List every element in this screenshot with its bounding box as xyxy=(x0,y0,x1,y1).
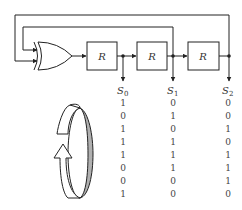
output-label-s2: S 2 xyxy=(222,85,233,98)
svg-text:1: 1 xyxy=(170,150,176,160)
svg-text:0: 0 xyxy=(120,163,126,173)
svg-text:1: 1 xyxy=(225,124,231,134)
sequence-row: 0 0 1 xyxy=(120,176,231,186)
svg-text:0: 0 xyxy=(170,98,176,108)
svg-text:0: 0 xyxy=(225,189,231,199)
svg-text:R: R xyxy=(147,51,156,62)
circular-arrow-icon xyxy=(54,104,93,198)
svg-text:S: S xyxy=(167,85,174,96)
sequence-row: 1 1 1 xyxy=(120,150,231,160)
svg-text:1: 1 xyxy=(170,111,176,121)
svg-text:S: S xyxy=(117,85,124,96)
svg-text:R: R xyxy=(97,51,106,62)
sequence-row: 1 0 0 xyxy=(120,189,231,199)
sequence-row: 1 1 0 xyxy=(120,137,231,147)
svg-text:0: 0 xyxy=(170,124,176,134)
svg-text:0: 0 xyxy=(120,111,126,121)
lfsr-diagram: R R R S 0 S 1 S 2 1 0 0 0 1 xyxy=(0,0,242,210)
sequence-row: 0 1 1 xyxy=(120,163,231,173)
svg-text:0: 0 xyxy=(225,98,231,108)
sequence-row: 1 0 1 xyxy=(120,124,231,134)
sequence-row: 1 0 0 xyxy=(120,98,231,108)
output-label-s0: S 0 xyxy=(117,85,128,98)
output-label-s1: S 1 xyxy=(167,85,178,98)
svg-text:1: 1 xyxy=(120,137,126,147)
svg-text:1: 1 xyxy=(225,163,231,173)
svg-text:0: 0 xyxy=(120,176,126,186)
sequence-row: 0 1 0 xyxy=(120,111,231,121)
svg-text:0: 0 xyxy=(170,176,176,186)
svg-text:1: 1 xyxy=(120,189,126,199)
xor-gate-icon xyxy=(34,42,72,70)
sequence-table: 1 0 0 0 1 0 1 0 1 1 1 0 1 1 1 0 1 1 xyxy=(120,98,231,199)
svg-text:0: 0 xyxy=(170,189,176,199)
register-2: R xyxy=(137,42,167,70)
svg-text:0: 0 xyxy=(124,90,128,98)
svg-text:2: 2 xyxy=(229,90,233,98)
svg-text:1: 1 xyxy=(225,150,231,160)
svg-text:0: 0 xyxy=(225,111,231,121)
svg-text:1: 1 xyxy=(120,124,126,134)
svg-text:1: 1 xyxy=(174,90,178,98)
svg-text:R: R xyxy=(198,51,207,62)
register-1: R xyxy=(87,42,117,70)
register-3: R xyxy=(188,42,219,70)
svg-text:1: 1 xyxy=(120,98,126,108)
svg-text:0: 0 xyxy=(225,137,231,147)
svg-text:1: 1 xyxy=(170,137,176,147)
svg-text:1: 1 xyxy=(170,163,176,173)
svg-text:1: 1 xyxy=(225,176,231,186)
svg-text:S: S xyxy=(222,85,229,96)
svg-text:1: 1 xyxy=(120,150,126,160)
